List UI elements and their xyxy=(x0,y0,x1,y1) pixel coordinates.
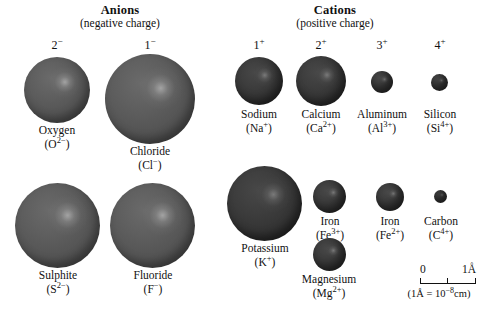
ion-name-chloride: Chloride xyxy=(100,145,200,159)
ion-sphere-calcium xyxy=(296,56,346,106)
ion-sphere-carbon xyxy=(434,190,447,203)
charge-sign: + xyxy=(321,36,326,46)
ion-sphere-iron-2plus xyxy=(376,183,404,211)
ion-caption-potassium: Potassium (K+) xyxy=(225,242,305,269)
ion-sphere-oxygen xyxy=(24,57,90,123)
ion-caption-silicon: Silicon (Si4+) xyxy=(400,108,480,135)
scale-unit-note: (1Å = 10−8cm) xyxy=(402,288,476,299)
ion-formula-potassium: (K+) xyxy=(225,256,305,270)
ion-sphere-sulphite xyxy=(15,183,100,268)
ionic-radii-figure: Anions (negative charge) Cations (positi… xyxy=(0,0,500,309)
ion-formula-carbon: (C4+) xyxy=(401,229,481,243)
ion-formula-silicon: (Si4+) xyxy=(400,122,480,136)
ion-formula-chloride: (Cl−) xyxy=(100,159,200,173)
scale-tick-middle xyxy=(447,278,448,284)
cations-section-subtitle: (positive charge) xyxy=(265,17,405,29)
ion-caption-fluoride: Fluoride (F−) xyxy=(103,269,203,296)
anions-section-subtitle: (negative charge) xyxy=(50,17,190,29)
charge-sign: − xyxy=(150,36,155,46)
charge-sign: − xyxy=(57,36,62,46)
anions-section-title: Anions xyxy=(50,3,190,18)
ion-formula-oxygen: (O2−) xyxy=(7,138,107,152)
scale-start-label: 0 xyxy=(420,263,426,275)
ion-formula-fluoride: (F−) xyxy=(103,283,203,297)
ion-caption-sulphite: Sulphite (S2−) xyxy=(8,269,108,296)
charge-label-4-plus: 4+ xyxy=(420,38,460,53)
ion-caption-oxygen: Oxygen (O2−) xyxy=(7,124,107,151)
ion-caption-carbon: Carbon (C4+) xyxy=(401,215,481,242)
charge-sign: + xyxy=(382,36,387,46)
charge-label-2-plus: 2+ xyxy=(301,38,341,53)
charge-label-3-plus: 3+ xyxy=(362,38,402,53)
scale-bar-line xyxy=(420,283,476,284)
charge-label-2-minus: 2− xyxy=(37,38,77,53)
ion-sphere-chloride xyxy=(105,54,195,144)
scale-tick-start xyxy=(420,278,421,284)
ion-sphere-fluoride xyxy=(110,183,195,268)
charge-sign: + xyxy=(440,36,445,46)
charge-label-1-minus: 1− xyxy=(130,38,170,53)
ion-sphere-magnesium xyxy=(313,238,346,271)
ion-formula-magnesium: (Mg2+) xyxy=(289,287,369,301)
ion-sphere-sodium xyxy=(235,57,283,105)
cations-section-title: Cations xyxy=(265,3,405,18)
charge-sign: + xyxy=(259,36,264,46)
ion-name-magnesium: Magnesium xyxy=(289,273,369,287)
scale-bar-labels: 0 1Å xyxy=(420,263,476,277)
scale-bar-rule xyxy=(420,278,476,285)
scale-bar-group: 0 1Å (1Å = 10−8cm) xyxy=(420,263,476,299)
ion-formula-sulphite: (S2−) xyxy=(8,283,108,297)
ion-caption-magnesium: Magnesium (Mg2+) xyxy=(289,273,369,300)
scale-end-label: 1Å xyxy=(462,263,476,275)
ion-sphere-aluminum xyxy=(371,71,393,93)
ion-sphere-iron-3plus xyxy=(313,180,346,213)
charge-label-1-plus: 1+ xyxy=(239,38,279,53)
ion-caption-chloride: Chloride (Cl−) xyxy=(100,145,200,172)
scale-tick-end xyxy=(475,278,476,284)
ion-sphere-silicon xyxy=(431,74,448,91)
ion-name-potassium: Potassium xyxy=(225,242,305,256)
